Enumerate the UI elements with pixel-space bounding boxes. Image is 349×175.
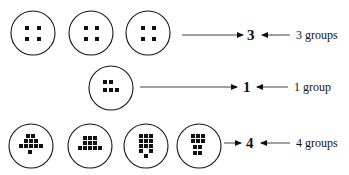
item-square (83, 146, 87, 150)
item-square (115, 88, 119, 92)
item-square (84, 26, 88, 30)
item-square (103, 88, 107, 92)
item-square (149, 144, 153, 148)
item-square (196, 134, 200, 138)
item-square (144, 154, 148, 158)
item-square (29, 139, 33, 143)
item-square (149, 139, 153, 143)
item-square (98, 146, 102, 150)
item-square (34, 144, 38, 148)
item-square (201, 134, 205, 138)
item-square (24, 144, 28, 148)
item-square (88, 141, 92, 145)
item-square (26, 134, 30, 138)
label-row-1: 3 groups (296, 29, 338, 41)
item-square (24, 139, 28, 143)
item-square (34, 139, 38, 143)
item-square (29, 144, 33, 148)
item-square (196, 139, 200, 143)
item-square (78, 146, 82, 150)
item-square (19, 144, 23, 148)
item-square (141, 26, 145, 30)
result-row-2: 1 (243, 80, 251, 95)
item-square (149, 134, 153, 138)
item-square (93, 146, 97, 150)
item-square (83, 141, 87, 145)
item-square (152, 37, 156, 41)
item-square (198, 145, 202, 149)
group-circle (69, 11, 113, 55)
item-square (25, 26, 29, 30)
item-square (95, 26, 99, 30)
item-square (31, 134, 35, 138)
item-square (141, 37, 145, 41)
group-circle (126, 11, 170, 55)
item-square (84, 37, 88, 41)
item-square (88, 136, 92, 140)
item-square (201, 139, 205, 143)
item-square (93, 141, 97, 145)
item-square (28, 150, 32, 154)
item-square (109, 88, 113, 92)
item-square (93, 136, 97, 140)
item-square (37, 37, 41, 41)
group-circle (11, 11, 55, 55)
item-square (191, 139, 195, 143)
result-row-3: 4 (246, 136, 254, 151)
item-square (152, 26, 156, 30)
result-row-1: 3 (247, 28, 255, 43)
item-square (139, 149, 143, 153)
item-square (139, 139, 143, 143)
item-square (191, 134, 195, 138)
label-row-2: 1 group (294, 81, 331, 93)
item-square (83, 136, 87, 140)
item-square (139, 134, 143, 138)
item-square (95, 37, 99, 41)
item-square (193, 151, 197, 155)
item-square (144, 134, 148, 138)
item-square (39, 144, 43, 148)
item-square (37, 26, 41, 30)
item-square (144, 144, 148, 148)
item-square (198, 151, 202, 155)
item-square (139, 144, 143, 148)
item-square (88, 146, 92, 150)
label-row-3: 4 groups (296, 137, 338, 149)
item-square (144, 139, 148, 143)
item-square (193, 145, 197, 149)
item-square (149, 149, 153, 153)
item-square (103, 80, 107, 84)
item-square (109, 80, 113, 84)
item-square (25, 37, 29, 41)
